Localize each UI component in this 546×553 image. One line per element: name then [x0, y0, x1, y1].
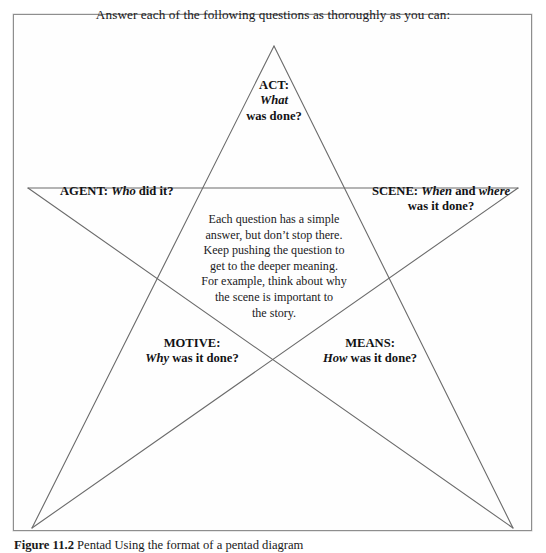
label-scene-conjunction: and: [455, 184, 475, 198]
label-motive: MOTIVE: Why was it done?: [110, 336, 274, 367]
label-motive-emphasis: Why: [145, 351, 169, 365]
label-means-rest: was it done?: [351, 351, 417, 365]
label-means-title: MEANS:: [288, 336, 452, 351]
figure-caption-number: Figure 11.2: [14, 538, 74, 552]
center-note-line-5-emphasis: why: [326, 274, 347, 288]
center-note-line-6: the scene is important to: [183, 290, 365, 306]
figure-caption-text: Pentad Using the format of a pentad diag…: [77, 538, 303, 552]
center-note-line-2: answer, but don’t stop there.: [183, 228, 365, 244]
label-agent-emphasis: Who: [111, 184, 136, 198]
label-means-emphasis: How: [323, 351, 348, 365]
center-note-line-1: Each question has a simple: [183, 212, 365, 228]
label-scene-emphasis-where: where: [479, 184, 510, 198]
label-scene-emphasis-when: When: [421, 184, 452, 198]
center-note-line-3: Keep pushing the question to: [183, 243, 365, 259]
label-motive-rest: was it done?: [172, 351, 238, 365]
label-means: MEANS: How was it done?: [288, 336, 452, 367]
center-note-line-5-text: For example, think about: [201, 274, 323, 288]
label-act-emphasis: What: [222, 93, 326, 108]
label-agent: AGENT: Who did it?: [60, 184, 230, 199]
center-note-line-7: the story.: [183, 306, 365, 322]
label-scene: SCENE: When and where was it done?: [355, 184, 527, 215]
label-scene-line2: was it done?: [355, 199, 527, 214]
label-act-title: ACT:: [222, 78, 326, 93]
figure-heading: Answer each of the following questions a…: [0, 7, 546, 23]
label-scene-title: SCENE:: [372, 184, 418, 198]
center-note-line-4: get to the deeper meaning.: [183, 259, 365, 275]
label-agent-rest: did it?: [139, 184, 174, 198]
figure-caption: Figure 11.2 Pentad Using the format of a…: [14, 538, 534, 553]
label-agent-title: AGENT:: [60, 184, 108, 198]
label-motive-title: MOTIVE:: [110, 336, 274, 351]
label-act-rest: was done?: [222, 109, 326, 124]
label-act: ACT: What was done?: [222, 78, 326, 124]
center-note: Each question has a simple answer, but d…: [183, 212, 365, 321]
